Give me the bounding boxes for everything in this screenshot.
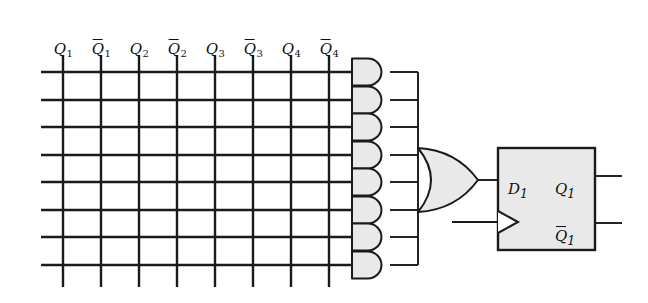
- and-gate-output-wires: [390, 72, 418, 265]
- and-gate-1: [352, 59, 381, 86]
- flip-flop-q-output-label: Q1: [555, 182, 575, 201]
- input-label-Q4: Q4: [282, 42, 301, 57]
- and-gate-7: [352, 224, 381, 251]
- and-gate-array: [352, 59, 381, 279]
- logic-diagram-figure: Q1Q1Q2Q2Q3Q3Q4Q4 D1Q1Q1: [0, 0, 648, 303]
- flip-flop-d-input-label: D1: [508, 182, 528, 201]
- input-label-Q1bar: Q1: [92, 42, 111, 57]
- and-gate-6: [352, 197, 381, 224]
- input-label-Q3: Q3: [206, 42, 225, 57]
- and-gate-5: [352, 169, 381, 196]
- input-label-Q3bar: Q3: [244, 42, 263, 57]
- product-term-lines: [41, 72, 352, 265]
- input-label-Q4bar: Q4: [320, 42, 339, 57]
- d-flip-flop: [452, 148, 622, 250]
- input-column-lines: [63, 56, 329, 287]
- input-label-Q2bar: Q2: [168, 42, 187, 57]
- and-gate-8: [352, 252, 381, 279]
- flip-flop-qbar-output-label: Q1: [555, 229, 575, 248]
- and-gate-2: [352, 87, 381, 114]
- or-gate-body: [418, 148, 478, 212]
- or-gate: [418, 148, 498, 212]
- and-gate-4: [352, 142, 381, 169]
- input-label-Q1: Q1: [54, 42, 73, 57]
- input-label-Q2: Q2: [130, 42, 149, 57]
- and-gate-3: [352, 114, 381, 141]
